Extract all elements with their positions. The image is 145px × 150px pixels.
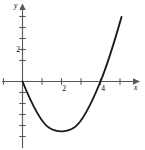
x-axis-name: x bbox=[134, 83, 137, 92]
x-axis-tick-label-4: 4 bbox=[98, 84, 108, 93]
y-axis-arrow-icon bbox=[19, 4, 25, 11]
parabola-curve bbox=[23, 17, 122, 131]
parabola-figure: 2 4 2 x y bbox=[0, 0, 145, 150]
plot-canvas bbox=[0, 0, 145, 150]
y-axis-name: y bbox=[14, 1, 17, 10]
x-axis-tick-label-2: 2 bbox=[59, 84, 69, 93]
y-axis-tick-label-2: 2 bbox=[11, 45, 20, 54]
